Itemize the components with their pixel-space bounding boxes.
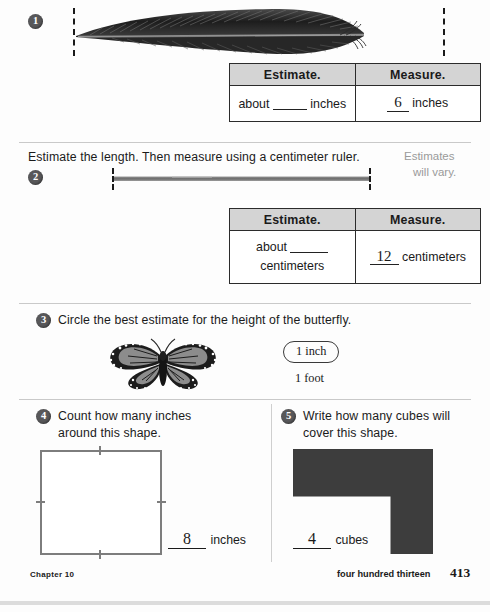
q1-estimate-header: Estimate.: [230, 64, 356, 86]
q2-measure-cell[interactable]: 12 centimeters: [355, 231, 481, 284]
footer-page-words: four hundred thirteen: [337, 569, 430, 579]
estimates-note-line-1: Estimates: [404, 150, 455, 162]
feather-left-endpoint-marker: [73, 8, 75, 56]
feather-image: [72, 6, 372, 58]
question-3-choice-2[interactable]: 1 foot: [295, 371, 324, 386]
q2-measure-header: Measure.: [355, 209, 481, 231]
section-divider-3: [19, 399, 471, 400]
question-4-answer-value: 8: [168, 530, 206, 549]
question-1-measurement-table: Estimate. Measure. about inches 6 inches: [229, 63, 481, 122]
square-tick-bottom: [99, 550, 101, 559]
q2-estimate-blank[interactable]: [290, 240, 328, 253]
question-5-answer-value: 4: [293, 530, 331, 549]
question-4-answer[interactable]: 8 inches: [168, 530, 246, 549]
gray-rod-image: [112, 174, 370, 184]
q1-estimate-prefix: about: [238, 97, 269, 111]
q1-measure-value: 6: [387, 95, 409, 112]
footer-page-number: 413: [450, 565, 470, 581]
q2-estimate-header: Estimate.: [230, 209, 356, 231]
monarch-butterfly-image: [104, 336, 222, 392]
square-tick-left: [36, 501, 45, 503]
question-5-instruction-line-1: Write how many cubes will: [303, 409, 450, 423]
q1-estimate-unit: inches: [310, 97, 346, 111]
estimates-note-line-2: will vary.: [413, 166, 456, 178]
question-5-badge: 5: [281, 409, 296, 424]
bottom-bar: [0, 601, 490, 605]
q1-measure-header: Measure.: [355, 64, 480, 86]
section-divider-1: [19, 142, 471, 143]
q2-estimate-cell[interactable]: about centimeters: [230, 231, 356, 284]
question-3-choice-1-label[interactable]: 1 inch: [283, 341, 339, 363]
q1-estimate-cell[interactable]: about inches: [230, 86, 356, 122]
question-5-answer[interactable]: 4 cubes: [293, 530, 368, 549]
question-3-badge: 3: [36, 313, 51, 328]
worksheet-page: 1: [0, 0, 490, 612]
question-5-instruction-line-2: cover this shape.: [303, 426, 398, 440]
question-2-measurement-table: Estimate. Measure. about centimeters 12 …: [229, 208, 481, 284]
q2-estimate-prefix: about: [256, 240, 287, 254]
question-3-choice-1[interactable]: 1 inch: [283, 341, 339, 363]
question-2-instruction: Estimate the length. Then measure using …: [28, 150, 388, 164]
rod-right-endpoint-marker: [369, 168, 371, 190]
square-tick-top: [99, 446, 101, 455]
question-4-answer-unit: inches: [210, 533, 246, 547]
rod-left-endpoint-marker: [112, 168, 114, 190]
square-tick-right: [157, 501, 166, 503]
question-4-badge: 4: [36, 409, 51, 424]
square-shape: [40, 450, 162, 555]
q2-estimate-unit: centimeters: [260, 259, 324, 273]
q2-measure-unit: centimeters: [402, 250, 466, 264]
q1-measure-unit: inches: [412, 96, 448, 110]
q1-estimate-blank[interactable]: [273, 97, 307, 110]
feather-right-endpoint-marker: [443, 8, 445, 56]
question-3-instruction: Circle the best estimate for the height …: [58, 313, 458, 327]
question-5-answer-unit: cubes: [335, 533, 368, 547]
question-1-badge: 1: [28, 14, 43, 29]
column-divider: [271, 404, 272, 562]
q2-measure-value: 12: [370, 249, 399, 266]
footer-chapter: Chapter 10: [30, 570, 74, 579]
question-4-instruction-line-1: Count how many inches: [58, 409, 191, 423]
q1-measure-cell[interactable]: 6 inches: [355, 86, 480, 122]
question-2-badge: 2: [28, 170, 43, 185]
section-divider-2: [19, 303, 471, 304]
question-4-instruction-line-2: around this shape.: [58, 426, 161, 440]
